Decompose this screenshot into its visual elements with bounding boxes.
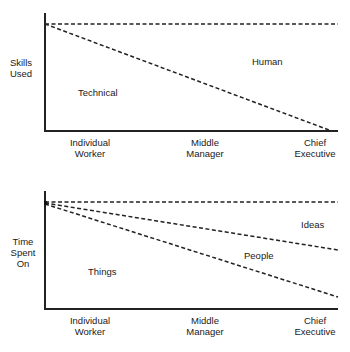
region-human-label: Human	[252, 56, 283, 67]
top-y-label: Skills Used	[4, 57, 38, 79]
bottom-y-label: Time Spent On	[6, 236, 40, 269]
bottom-origin-marker	[44, 201, 47, 205]
bottom-dashed-people-ideas	[45, 203, 338, 250]
bottom-xtick-middle-manager: Middle Manager	[175, 315, 235, 337]
bottom-dashed-things-people	[45, 204, 338, 297]
top-xtick-chief-executive: Chief Executive	[285, 137, 345, 159]
bottom-xtick-chief-executive: Chief Executive	[285, 315, 345, 337]
charts-canvas	[0, 0, 350, 352]
bottom-xtick-individual-worker: Individual Worker	[60, 315, 120, 337]
top-xtick-middle-manager: Middle Manager	[175, 137, 235, 159]
top-dashed-divider	[45, 24, 329, 130]
region-ideas-label: Ideas	[301, 219, 324, 230]
top-xtick-individual-worker: Individual Worker	[60, 137, 120, 159]
region-people-label: People	[244, 250, 274, 261]
region-technical-label: Technical	[78, 87, 118, 98]
region-things-label: Things	[88, 266, 117, 277]
